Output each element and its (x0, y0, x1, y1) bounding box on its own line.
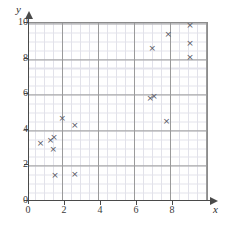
plot-area (28, 22, 208, 200)
x-tick-label: 0 (19, 205, 37, 215)
x-tick-label: 2 (55, 205, 73, 215)
x-tick-label: 6 (127, 205, 145, 215)
y-tick-label: 8 (10, 53, 28, 63)
x-axis-label: x (213, 203, 218, 215)
y-tick-label: 2 (10, 159, 28, 169)
x-tick-label: 8 (163, 205, 181, 215)
x-axis-line (24, 200, 212, 201)
y-tick-label: 6 (10, 88, 28, 98)
y-axis-label: y (16, 3, 21, 15)
y-tick-label: 4 (10, 124, 28, 134)
y-axis-line (28, 18, 29, 204)
y-tick-label: 10 (10, 17, 28, 27)
scatter-plot-figure: y x 0246810 02468 (0, 0, 227, 233)
x-tick-label: 4 (91, 205, 109, 215)
